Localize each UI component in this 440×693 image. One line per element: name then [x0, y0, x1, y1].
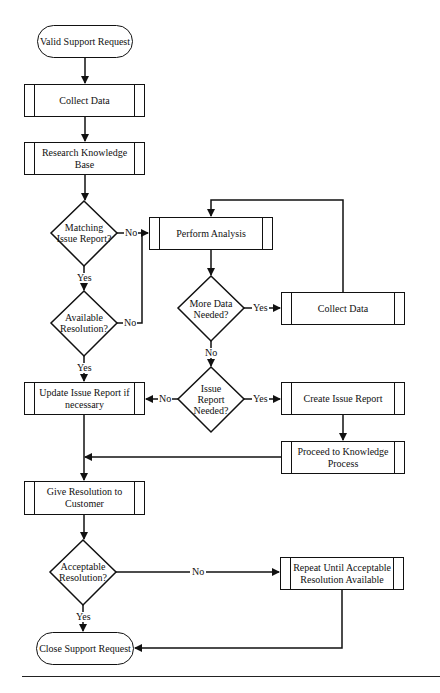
process-proceed-knowledge: Proceed to Knowledge Process — [281, 441, 405, 474]
process-collect-data: Collect Data — [24, 84, 145, 117]
create-issue-label: Create Issue Report — [304, 393, 383, 405]
decision-more-data-needed: More Data Needed? — [183, 294, 239, 324]
bottom-divider — [22, 676, 440, 677]
issue-report-needed-label: Issue Report Needed? — [186, 383, 236, 416]
edge-label-more-data-yes: Yes — [252, 303, 269, 313]
process-give-resolution: Give Resolution to Customer — [24, 481, 145, 515]
collect-data-label: Collect Data — [59, 95, 109, 107]
more-data-label: More Data Needed? — [183, 298, 239, 320]
start-label: Valid Support Request — [40, 36, 130, 48]
edge-label-acceptable-yes: Yes — [75, 612, 92, 622]
process-perform-analysis: Perform Analysis — [149, 217, 273, 250]
edge-label-acceptable-no: No — [191, 567, 205, 577]
give-resolution-label: Give Resolution to Customer — [43, 486, 126, 510]
edge-label-issue-report-no: No — [158, 394, 172, 404]
repeat-until-label: Repeat Until Acceptable Resolution Avail… — [293, 562, 391, 586]
update-issue-label: Update Issue Report if necessary — [39, 387, 130, 411]
end-label: Close Support Request — [39, 643, 131, 655]
process-repeat-until: Repeat Until Acceptable Resolution Avail… — [280, 557, 404, 590]
edge-label-more-data-no: No — [204, 348, 218, 358]
decision-matching-issue: Matching Issue Report? — [56, 215, 112, 251]
edge-label-matching-no: No — [124, 228, 138, 238]
matching-issue-label: Matching Issue Report? — [56, 222, 112, 244]
process-update-issue-report: Update Issue Report if necessary — [24, 382, 145, 415]
collect-data-2-label: Collect Data — [318, 303, 368, 315]
edge-label-available-no: No — [123, 318, 137, 328]
perform-analysis-label: Perform Analysis — [176, 228, 246, 240]
available-resolution-label: Available Resolution? — [52, 312, 116, 334]
research-kb-label: Research Knowledge Base — [41, 147, 128, 171]
edge-label-available-yes: Yes — [76, 363, 93, 373]
process-research-knowledge-base: Research Knowledge Base — [24, 142, 145, 175]
proceed-knowledge-label: Proceed to Knowledge Process — [294, 446, 392, 470]
decision-acceptable-resolution: Acceptable Resolution? — [52, 557, 114, 587]
start-terminal: Valid Support Request — [37, 25, 133, 58]
end-terminal: Close Support Request — [36, 632, 134, 665]
edge-label-matching-yes: Yes — [76, 273, 93, 283]
decision-issue-report-needed: Issue Report Needed? — [186, 381, 236, 417]
edge-label-issue-report-yes: Yes — [252, 394, 269, 404]
decision-available-resolution: Available Resolution? — [52, 308, 116, 338]
process-collect-data-2: Collect Data — [281, 292, 405, 325]
process-create-issue-report: Create Issue Report — [281, 382, 405, 415]
acceptable-resolution-label: Acceptable Resolution? — [52, 561, 114, 583]
